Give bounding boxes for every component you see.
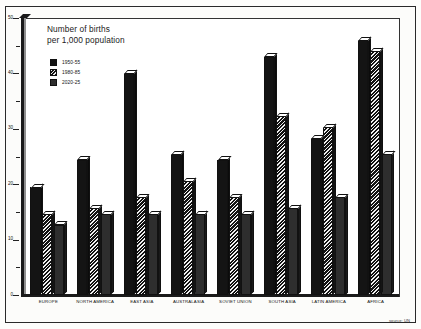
y-axis-tick-label-20: 20 <box>1 182 13 186</box>
bar-front-face <box>136 197 146 295</box>
bar-front-face <box>335 197 345 295</box>
bar-top-face <box>31 184 44 188</box>
y-axis-minor-tick-35 <box>16 101 20 102</box>
bar-front-face <box>264 57 274 295</box>
bar-south-asia-1980-85 <box>276 116 286 295</box>
x-axis-label-north-america: NORTH AMERICA <box>76 299 114 304</box>
bar-side-face <box>274 53 277 294</box>
bar-africa-1950-55 <box>358 40 368 295</box>
x-axis-label-africa: AFRICA <box>367 299 384 304</box>
x-axis-labels: EUROPENORTH AMERICAEAST ASIAAUSTRALASIAS… <box>25 299 399 311</box>
bar-australasia-1950-55 <box>171 154 181 295</box>
bar-front-face <box>311 138 321 295</box>
bar-front-face <box>124 73 134 295</box>
bar-side-face <box>134 70 137 295</box>
bar-front-face <box>42 214 52 295</box>
bar-side-face <box>87 156 90 294</box>
bar-front-face <box>194 214 204 295</box>
bar-africa-2020-25 <box>381 154 391 295</box>
bar-front-face <box>148 214 158 295</box>
bar-group-south-asia <box>259 18 306 295</box>
bar-side-face <box>345 194 348 294</box>
bar-east-asia-2020-25 <box>148 214 158 295</box>
x-axis-label-australasia: AUSTRALASIA <box>173 299 204 304</box>
y-axis-labels: 01020304050 <box>0 0 13 329</box>
bar-side-face <box>158 211 161 295</box>
bar-latin-america-1950-55 <box>311 138 321 295</box>
bar-side-face <box>286 113 289 294</box>
y-axis-tick-10 <box>13 240 19 241</box>
bar-australasia-2020-25 <box>194 214 204 295</box>
y-axis-minor-tick-15 <box>16 212 20 213</box>
bar-front-face <box>54 225 64 295</box>
bar-group-australasia <box>165 18 212 295</box>
bar-south-asia-2020-25 <box>288 208 298 295</box>
bar-group-africa <box>352 18 399 295</box>
source-note: source: UN <box>389 318 410 323</box>
bar-front-face <box>288 208 298 295</box>
x-axis-label-europe: EUROPE <box>39 299 58 304</box>
bar-latin-america-1980-85 <box>323 127 333 295</box>
bar-group-soviet-union <box>212 18 259 295</box>
bar-front-face <box>370 51 380 295</box>
bar-side-face <box>146 194 149 294</box>
bar-africa-1980-85 <box>370 51 380 295</box>
bar-side-face <box>64 221 67 294</box>
bar-front-face <box>276 116 286 295</box>
bar-australasia-1980-85 <box>183 181 193 295</box>
bar-front-face <box>217 160 227 296</box>
chart-screenshot: 01020304050 Number of births per 1,000 p… <box>0 0 421 329</box>
bar-group-europe <box>25 18 72 295</box>
bar-front-face <box>381 154 391 295</box>
bar-side-face <box>251 211 254 295</box>
y-axis-tick-40 <box>13 73 19 74</box>
y-axis-tick-0 <box>13 295 19 296</box>
bar-latin-america-2020-25 <box>335 197 345 295</box>
y-axis-minor-tick-5 <box>16 267 20 268</box>
bar-soviet-union-2020-25 <box>241 214 251 295</box>
bar-soviet-union-1950-55 <box>217 160 227 296</box>
bar-side-face <box>99 205 102 294</box>
bar-series-container <box>25 18 399 295</box>
bar-top-face <box>195 211 208 215</box>
bar-side-face <box>298 205 301 294</box>
y-axis-tick-label-40: 40 <box>1 71 13 75</box>
y-axis-tick-label-10: 10 <box>1 237 13 241</box>
bar-europe-1980-85 <box>42 214 52 295</box>
bar-front-face <box>30 187 40 295</box>
bar-side-face <box>204 211 207 295</box>
bar-north-america-1950-55 <box>77 160 87 296</box>
y-axis-tick-50 <box>13 18 19 19</box>
bar-europe-2020-25 <box>54 225 64 295</box>
bar-side-face <box>193 178 196 294</box>
bar-side-face <box>368 37 371 294</box>
bar-front-face <box>101 214 111 295</box>
bar-side-face <box>321 135 324 295</box>
bar-side-face <box>111 211 114 295</box>
bar-front-face <box>229 197 239 295</box>
bar-side-face <box>391 151 394 294</box>
bar-front-face <box>171 154 181 295</box>
bar-east-asia-1950-55 <box>124 73 134 295</box>
bar-side-face <box>333 124 336 295</box>
x-axis-label-south-asia: SOUTH ASIA <box>268 299 295 304</box>
y-axis-minor-tick-45 <box>16 46 20 47</box>
bar-north-america-2020-25 <box>101 214 111 295</box>
bar-front-face <box>77 160 87 296</box>
bar-soviet-union-1980-85 <box>229 197 239 295</box>
bar-front-face <box>241 214 251 295</box>
y-axis-minor-tick-25 <box>16 157 20 158</box>
bar-group-north-america <box>72 18 119 295</box>
x-axis-label-latin-america: LATIN AMERICA <box>312 299 346 304</box>
bar-south-asia-1950-55 <box>264 57 274 295</box>
bar-front-face <box>323 127 333 295</box>
y-axis-tick-label-50: 50 <box>1 16 13 20</box>
bar-side-face <box>52 211 55 295</box>
x-axis-label-soviet-union: SOVIET UNION <box>219 299 252 304</box>
bar-north-america-1980-85 <box>89 208 99 295</box>
bar-side-face <box>380 48 383 294</box>
bar-side-face <box>239 194 242 294</box>
bar-group-east-asia <box>119 18 166 295</box>
bar-group-latin-america <box>306 18 353 295</box>
bar-east-asia-1980-85 <box>136 197 146 295</box>
